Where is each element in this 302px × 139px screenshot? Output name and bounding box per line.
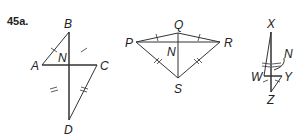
- label-x: X: [266, 17, 276, 31]
- label-r: R: [224, 36, 233, 50]
- label-b: B: [64, 17, 72, 31]
- label-s: S: [174, 82, 182, 96]
- label-d: D: [64, 123, 73, 137]
- label-w: W: [251, 70, 264, 84]
- kite-abcd: B A C D N: [30, 17, 109, 137]
- label-n: N: [167, 45, 176, 59]
- label-a: A: [30, 59, 39, 73]
- geometry-figures: 45a. B A C D N Q P R S N: [0, 0, 302, 139]
- kite-xwyz: X W Y Z N: [251, 17, 293, 107]
- label-q: Q: [174, 18, 183, 32]
- label-p: P: [125, 36, 133, 50]
- label-y: Y: [284, 70, 293, 84]
- problem-number: 45a.: [7, 15, 28, 27]
- label-z: Z: [266, 93, 275, 107]
- label-n: N: [284, 47, 293, 61]
- label-c: C: [100, 59, 109, 73]
- label-n: N: [58, 51, 67, 65]
- kite-pqrs: Q P R S N: [125, 18, 233, 96]
